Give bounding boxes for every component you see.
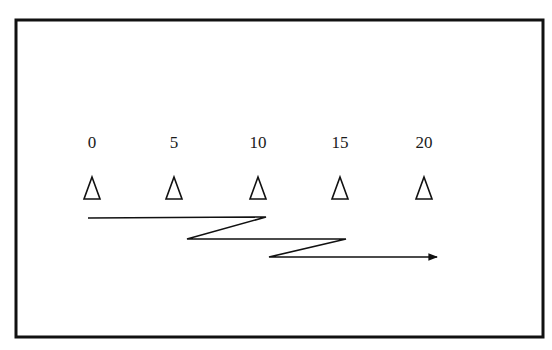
cone-marker-icon: [332, 177, 348, 199]
cone-marker-icon: [416, 177, 432, 199]
cone-group: [84, 177, 432, 199]
distance-label-5: 5: [154, 134, 194, 151]
distance-label-15: 15: [320, 134, 360, 151]
zigzag-route-arrow: [88, 217, 437, 257]
cone-marker-icon: [84, 177, 100, 199]
drill-diagram: [0, 0, 552, 350]
field-border: [16, 20, 543, 337]
cone-marker-icon: [250, 177, 266, 199]
cone-marker-icon: [166, 177, 182, 199]
distance-label-10: 10: [238, 134, 278, 151]
distance-label-0: 0: [72, 134, 112, 151]
distance-label-20: 20: [404, 134, 444, 151]
